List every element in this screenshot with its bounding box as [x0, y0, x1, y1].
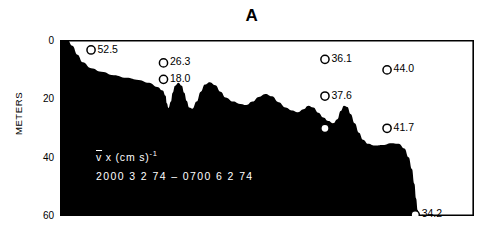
panel-title: A — [0, 6, 504, 26]
y-tick-label-40: 40 — [28, 153, 54, 163]
marker-circle — [383, 124, 391, 132]
oceanographic-depth-profile-figure: A METERS 0 20 40 60 52.526.318.036.144.0… — [0, 0, 504, 233]
marker-value-label: 34.2 — [422, 208, 442, 219]
marker-circle — [159, 75, 167, 83]
annotation-exponent: -1 — [150, 149, 158, 158]
y-axis-title: METERS — [13, 74, 24, 154]
marker-value-label: 27.0 — [332, 122, 352, 133]
annotation-line-1: v x (cm s)-1 — [96, 144, 254, 167]
velocity-annotation: v x (cm s)-1 2000 3 2 74 – 0700 6 2 74 — [96, 144, 254, 186]
marker-value-label: 18.0 — [170, 73, 190, 84]
marker-value-label: 41.7 — [394, 122, 414, 133]
marker-circle — [159, 59, 167, 67]
marker-circle — [321, 124, 329, 132]
y-tick-label-0: 0 — [28, 36, 54, 46]
marker-value-label: 36.1 — [332, 53, 352, 64]
marker-value-label: 37.6 — [332, 90, 352, 101]
marker-value-label: 26.3 — [170, 56, 190, 67]
marker-value-label: 52.5 — [98, 44, 118, 55]
marker-value-label: 44.0 — [394, 63, 414, 74]
marker-circle — [321, 92, 329, 100]
marker-circle — [411, 211, 419, 216]
annotation-units: x (cm s) — [102, 151, 149, 163]
annotation-line-2: 2000 3 2 74 – 0700 6 2 74 — [96, 167, 254, 186]
y-tick-label-20: 20 — [28, 94, 54, 104]
marker-circle — [87, 46, 95, 54]
marker-circle — [321, 55, 329, 63]
y-tick-label-60: 60 — [28, 211, 54, 221]
marker-circle — [383, 66, 391, 74]
plot-area: 52.526.318.036.144.037.627.041.734.2 — [60, 40, 474, 216]
